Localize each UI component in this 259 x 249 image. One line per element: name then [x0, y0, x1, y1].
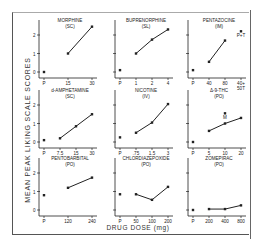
extra-point: [224, 112, 226, 114]
x-tick-label: P: [118, 81, 121, 86]
panel-morphine: 012P1530MORPHINE(SC): [33, 18, 97, 86]
x-tick-label: 200: [164, 219, 172, 224]
x-tick-label: 50T: [237, 86, 245, 91]
data-point: [167, 103, 169, 105]
panel-title: MORPHINE: [58, 18, 83, 23]
dose-response-line: [136, 187, 168, 200]
x-tick-label: 20: [238, 151, 244, 156]
data-point: [67, 52, 69, 54]
x-tick-label: P: [42, 81, 45, 86]
data-point: [135, 193, 137, 195]
small-multiples-chart: 012P1530MORPHINE(SC)P124BUPRENORPHINE(SL…: [0, 0, 259, 249]
y-tick-label: 0: [33, 208, 36, 213]
panel-title: PENTAZOCINE: [203, 18, 235, 23]
data-point: [151, 38, 153, 40]
data-point: [224, 39, 226, 41]
panel-title: PENTOBARBITAL: [51, 156, 89, 161]
x-tick-label: 1: [135, 81, 138, 86]
x-tick-label: P: [191, 151, 194, 156]
dose-response-line: [209, 41, 225, 62]
y-tick-label: 1: [33, 190, 36, 195]
extra-point: [240, 30, 242, 32]
x-tick-label: P: [42, 151, 45, 156]
y-tick-label: 0: [33, 140, 36, 145]
data-point: [59, 137, 61, 139]
data-point: [224, 122, 226, 124]
x-tick-label: 50: [133, 219, 139, 224]
dose-response-line: [68, 178, 92, 188]
placebo-point: [192, 209, 194, 211]
placebo-point: [119, 136, 121, 138]
panel-title: NICOTINE: [135, 88, 157, 93]
dose-response-line: [136, 104, 168, 133]
x-tick-label: 80: [222, 81, 228, 86]
y-tick-label: 2: [33, 171, 36, 176]
panel-route: (PO): [65, 162, 75, 167]
placebo-point: [192, 69, 194, 71]
y-tick-label: 1: [33, 52, 36, 57]
x-tick-label: 40: [206, 81, 212, 86]
x-tick-label: 100: [148, 219, 156, 224]
x-tick-label: 30: [89, 81, 95, 86]
data-point: [135, 132, 137, 134]
panel-title: BUPRENORPHINE: [126, 18, 166, 23]
data-point: [91, 25, 93, 27]
x-tick-label: 240: [88, 219, 96, 224]
data-point: [240, 117, 242, 119]
panel-route: (PO): [214, 94, 224, 99]
panel-chlordiazepoxide: P50100200CHLORDIAZEPOXIDE(PO): [113, 156, 173, 224]
data-point: [91, 176, 93, 178]
panel-route: (SC): [65, 24, 75, 29]
panel-title: d-AMPHETAMINE: [51, 88, 88, 93]
placebo-point: [43, 194, 45, 196]
x-tick-label: 15: [65, 81, 71, 86]
y-tick-label: 1: [33, 122, 36, 127]
data-point: [135, 52, 137, 54]
x-tick-label: P: [191, 81, 194, 86]
data-point: [75, 125, 77, 127]
panel-zomepirac: P200400800ZOMEPIRAC(PO): [186, 156, 246, 224]
x-tick-label: P: [118, 151, 121, 156]
placebo-point: [119, 69, 121, 71]
placebo-point: [119, 193, 121, 195]
placebo-point: [43, 139, 45, 141]
data-point: [67, 187, 69, 189]
panel-route: (PO): [214, 162, 224, 167]
placebo-point: [43, 71, 45, 73]
x-tick-label: 2: [151, 81, 154, 86]
data-point: [91, 113, 93, 115]
x-tick-label: 4: [167, 81, 170, 86]
panel-d-amphetamine: 012P7.51530d-AMPHETAMINE(SC): [33, 88, 97, 156]
panel-route: (SC): [65, 94, 75, 99]
data-point: [151, 121, 153, 123]
extra-point-label: P+T: [237, 33, 246, 38]
x-tick-label: 120: [64, 219, 72, 224]
panel--9-thc: P51020Δ-9-THC(PO)M: [186, 88, 246, 156]
y-tick-label: 2: [33, 103, 36, 108]
x-tick-label: P: [42, 219, 45, 224]
data-point: [167, 28, 169, 30]
panel-title: ZOMEPIRAC: [205, 156, 233, 161]
panel-nicotine: P.751.53NICOTINE(IV): [113, 88, 173, 156]
y-tick-label: 2: [33, 33, 36, 38]
data-point: [208, 61, 210, 63]
panel-buprenorphine: P124BUPRENORPHINE(SL): [113, 18, 173, 86]
panel-title: CHLORDIAZEPOXIDE: [123, 156, 170, 161]
panel-route: (IM): [215, 24, 224, 29]
x-tick-label: 30: [89, 151, 95, 156]
x-tick-label: 200: [205, 219, 213, 224]
panel-route: (PO): [141, 162, 151, 167]
x-tick-label: 800: [237, 219, 245, 224]
placebo-point: [192, 141, 194, 143]
panel-pentazocine: P408040+50TPENTAZOCINE(IM)P+T: [186, 18, 246, 91]
dose-response-line: [136, 29, 168, 53]
extra-point-label: M: [223, 115, 227, 120]
y-tick-label: 0: [33, 70, 36, 75]
data-point: [208, 208, 210, 210]
x-tick-label: P: [118, 219, 121, 224]
data-point: [167, 186, 169, 188]
data-point: [151, 199, 153, 201]
dose-response-line: [68, 27, 92, 54]
data-point: [240, 204, 242, 206]
panel-title: Δ-9-THC: [210, 88, 229, 93]
